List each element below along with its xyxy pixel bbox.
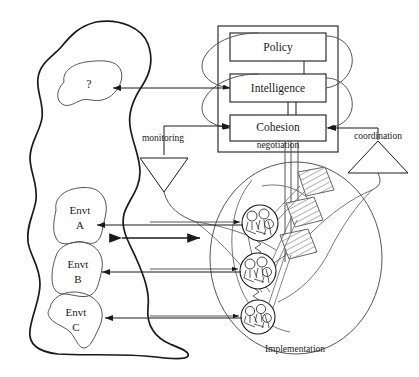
- envt-c-label-line1: Envt: [66, 306, 87, 318]
- cohesion-box-label: Cohesion: [256, 121, 300, 133]
- envt-a-label-line1: Envt: [70, 204, 91, 216]
- monitoring-label: monitoring: [142, 133, 184, 143]
- agent-cluster-icon[interactable]: [242, 205, 278, 241]
- cohesion-box[interactable]: Cohesion: [230, 115, 326, 141]
- agent-cluster-icon[interactable]: [240, 253, 276, 289]
- negotiation-label: negotiation: [257, 140, 300, 150]
- canvas-background: [0, 0, 419, 377]
- envt-a-label-line2: A: [76, 219, 84, 231]
- coordination-label: coordination: [354, 131, 402, 141]
- envt-c-label-line2: C: [72, 321, 79, 333]
- policy-box[interactable]: Policy: [230, 33, 326, 61]
- envt-b-label-line2: B: [74, 273, 81, 285]
- vsm-diagram-svg: ? Envt A Envt B Envt C Policy Intelligen…: [0, 0, 419, 377]
- envt-b-label-line1: Envt: [68, 258, 89, 270]
- intelligence-box-label: Intelligence: [251, 82, 305, 95]
- agent-cluster-icon[interactable]: [241, 300, 275, 334]
- unknown-marker-label: ?: [86, 77, 91, 91]
- implementation-label: Implementation: [265, 344, 325, 354]
- intelligence-box[interactable]: Intelligence: [230, 74, 326, 102]
- diagram-canvas: ? Envt A Envt B Envt C Policy Intelligen…: [0, 0, 419, 377]
- policy-box-label: Policy: [263, 41, 293, 54]
